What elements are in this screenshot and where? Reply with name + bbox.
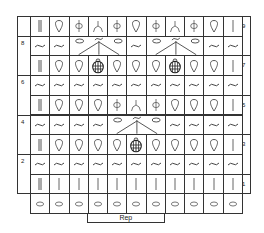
stitch-cell <box>184 174 204 195</box>
double-bar-icon <box>37 138 43 152</box>
phi-icon <box>189 19 199 33</box>
drop-icon <box>209 98 219 112</box>
stitch-cell <box>49 36 69 57</box>
stitch-cell <box>49 16 69 37</box>
wave-icon <box>150 161 162 167</box>
phi-icon <box>112 98 122 112</box>
stitch-cell <box>88 55 108 76</box>
stitch-cell <box>88 154 108 175</box>
wave-icon <box>169 82 181 88</box>
stitch-cell <box>223 115 243 136</box>
wave-icon <box>73 122 85 128</box>
stitch-cell <box>30 154 50 175</box>
stitch-cell <box>30 36 50 57</box>
chain-oval-icon <box>151 201 161 207</box>
stitch-cell <box>30 193 50 214</box>
stitch-cell <box>223 95 243 116</box>
wave-icon <box>227 161 239 167</box>
chain-oval-icon <box>131 201 141 207</box>
wave-icon <box>130 161 142 167</box>
stitch-cell <box>203 174 223 195</box>
stitch-cell <box>223 55 243 76</box>
stitch-cell <box>184 115 204 136</box>
label-divider <box>17 75 30 76</box>
drop-icon <box>74 98 84 112</box>
wave-icon <box>227 82 239 88</box>
stitch-cell <box>203 95 223 116</box>
stitch-cell <box>107 193 127 214</box>
cluster-cell <box>107 115 166 136</box>
drop-icon <box>170 98 180 112</box>
drop-icon <box>74 138 84 152</box>
wave-icon <box>188 161 200 167</box>
stitch-cell <box>223 134 243 155</box>
row-number-4: 4 <box>21 119 24 125</box>
stitch-cell <box>146 134 166 155</box>
stitch-chart: 987654321Rep <box>0 0 264 233</box>
bobble-icon <box>91 58 105 74</box>
drop-icon <box>151 138 161 152</box>
stitch-cell <box>69 154 89 175</box>
wave-icon <box>73 161 85 167</box>
stitch-cell <box>165 115 185 136</box>
double-bar-icon <box>37 19 43 33</box>
stitch-cell <box>30 16 50 37</box>
stitch-cell <box>88 174 108 195</box>
wave-icon <box>34 161 46 167</box>
drop-icon <box>54 138 64 152</box>
drop-icon <box>189 59 199 73</box>
drop-icon <box>151 59 161 73</box>
stitch-cell <box>107 16 127 37</box>
stitch-cell <box>107 134 127 155</box>
stitch-cell <box>49 55 69 76</box>
stitch-cell <box>69 75 89 96</box>
stitch-cell <box>223 36 243 57</box>
repeat-label: Rep <box>87 214 165 221</box>
wave-icon <box>150 82 162 88</box>
drop-icon <box>93 138 103 152</box>
chain-oval-icon <box>209 201 219 207</box>
stitch-cell <box>69 174 89 195</box>
stitch-cell <box>49 95 69 116</box>
drop-icon <box>209 138 219 152</box>
stitch-cell <box>69 16 89 37</box>
chain-oval-icon <box>170 201 180 207</box>
stitch-cell <box>126 134 146 155</box>
stitch-cell <box>30 95 50 116</box>
drop-icon <box>112 138 122 152</box>
wave-icon <box>227 122 239 128</box>
stitch-cell <box>203 55 223 76</box>
wave-icon <box>111 161 123 167</box>
y-fork-icon <box>92 19 104 33</box>
stitch-cell <box>223 174 243 195</box>
stitch-cell <box>146 174 166 195</box>
cluster-decrease-icon <box>70 36 127 56</box>
stitch-cell <box>146 16 166 37</box>
stitch-cell <box>146 75 166 96</box>
stitch-cell <box>88 134 108 155</box>
y-fork-icon <box>169 19 181 33</box>
stitch-cell <box>88 95 108 116</box>
stitch-cell <box>30 134 50 155</box>
stitch-cell <box>30 115 50 136</box>
stitch-cell <box>203 154 223 175</box>
stitch-cell <box>165 154 185 175</box>
stitch-cell <box>107 55 127 76</box>
single-bar-icon <box>56 177 62 191</box>
drop-icon <box>209 59 219 73</box>
wave-icon <box>130 82 142 88</box>
stitch-cell <box>88 16 108 37</box>
stitch-cell <box>88 75 108 96</box>
bobble-icon <box>168 58 182 74</box>
stitch-cell <box>184 75 204 96</box>
stitch-cell <box>165 95 185 116</box>
stitch-cell <box>49 75 69 96</box>
single-bar-icon <box>230 177 236 191</box>
stitch-cell <box>184 193 204 214</box>
stitch-cell <box>126 36 146 57</box>
drop-icon <box>54 59 64 73</box>
chain-oval-icon <box>54 201 64 207</box>
single-bar-icon <box>230 19 236 33</box>
drop-icon <box>131 19 141 33</box>
drop-icon <box>93 98 103 112</box>
